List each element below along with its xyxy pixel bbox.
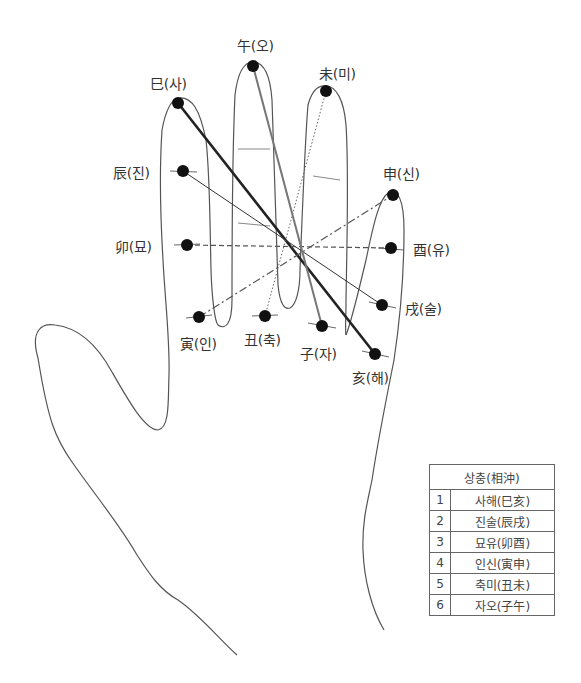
- wrist-left-outline: [137, 555, 237, 655]
- line-sa-hae: [178, 103, 375, 354]
- line-chuk-mi: [265, 91, 326, 316]
- little-finger-outline: [346, 192, 404, 360]
- legend-header: 상충(相沖): [430, 465, 555, 490]
- dot-chuk: [259, 310, 271, 322]
- dot-jin: [177, 165, 189, 177]
- legend-table: 상충(相沖) 1 사해(巳亥) 2 진술(辰戌) 3 묘유(卯酉) 4 인신(寅…: [429, 464, 555, 616]
- dot-myo: [181, 239, 193, 251]
- crease-marks: [238, 149, 340, 226]
- legend-row: 3 묘유(卯酉): [430, 532, 555, 553]
- legend-pair: 묘유(卯酉): [451, 532, 555, 553]
- legend-pair: 진술(辰戌): [451, 511, 555, 532]
- point-dots: [172, 60, 399, 360]
- dot-mi: [320, 85, 332, 97]
- legend-row: 1 사해(巳亥): [430, 490, 555, 511]
- label-hae: 亥(해): [352, 367, 389, 387]
- legend-pair: 사해(巳亥): [451, 490, 555, 511]
- line-jin-sul: [183, 171, 382, 305]
- legend-num: 5: [430, 574, 451, 595]
- dot-hae: [369, 348, 381, 360]
- label-chuk: 丑(축): [244, 329, 281, 349]
- label-jin: 辰(진): [113, 162, 150, 182]
- label-o: 午(오): [237, 35, 274, 55]
- dot-in: [193, 311, 205, 323]
- legend-pair: 자오(子午): [451, 595, 555, 616]
- legend-num: 6: [430, 595, 451, 616]
- label-ja: 子(자): [300, 343, 337, 363]
- hand-diagram: 巳(사) 午(오) 未(미) 申(신) 辰(진) 卯(묘) 酉(유) 戌(술) …: [0, 0, 581, 683]
- label-mi: 未(미): [319, 63, 356, 83]
- legend-num: 1: [430, 490, 451, 511]
- dot-sul: [376, 299, 388, 311]
- legend-header-row: 상충(相沖): [430, 465, 555, 490]
- dot-sa: [172, 97, 184, 109]
- line-ja-o: [253, 66, 322, 326]
- label-yu: 酉(유): [413, 239, 450, 259]
- legend-row: 2 진술(辰戌): [430, 511, 555, 532]
- legend-num: 4: [430, 553, 451, 574]
- legend-row: 5 축미(丑未): [430, 574, 555, 595]
- legend-num: 2: [430, 511, 451, 532]
- legend-row: 4 인신(寅申): [430, 553, 555, 574]
- hand-outline: [35, 62, 404, 655]
- dot-o: [247, 60, 259, 72]
- dot-ticks: [170, 171, 404, 357]
- label-sin: 申(신): [383, 163, 420, 183]
- legend-row: 6 자오(子午): [430, 595, 555, 616]
- palm-right-outline: [363, 360, 394, 630]
- dot-sin: [387, 189, 399, 201]
- legend-pair: 인신(寅申): [451, 553, 555, 574]
- label-sa: 巳(사): [150, 73, 187, 93]
- dot-yu: [385, 242, 397, 254]
- dot-ja: [316, 320, 328, 332]
- legend-num: 3: [430, 532, 451, 553]
- label-in: 寅(인): [180, 333, 217, 353]
- label-sul: 戌(술): [405, 298, 442, 318]
- legend-pair: 축미(丑未): [451, 574, 555, 595]
- middle-finger-outline: [300, 86, 348, 335]
- label-myo: 卯(묘): [115, 236, 152, 256]
